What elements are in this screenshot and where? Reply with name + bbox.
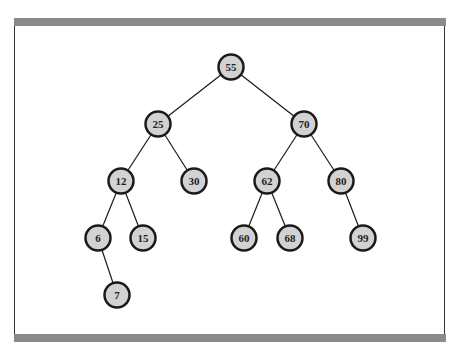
tree-node: 68 — [278, 226, 303, 251]
node-label: 60 — [239, 232, 251, 244]
node-label: 6 — [95, 232, 101, 244]
tree-node: 99 — [351, 226, 376, 251]
edges-layer — [98, 67, 363, 295]
tree-node: 62 — [255, 169, 280, 194]
node-label: 7 — [114, 289, 120, 301]
edge-n55-n25 — [158, 67, 231, 124]
node-label: 70 — [299, 118, 311, 130]
node-label: 62 — [262, 175, 274, 187]
tree-node: 80 — [329, 169, 354, 194]
node-label: 99 — [358, 232, 370, 244]
node-label: 15 — [138, 232, 150, 244]
node-label: 12 — [116, 175, 128, 187]
node-label: 55 — [226, 61, 238, 73]
node-label: 68 — [285, 232, 297, 244]
tree-node: 30 — [182, 169, 207, 194]
nodes-layer: 552570123062806156068997 — [86, 55, 376, 308]
tree-node: 55 — [219, 55, 244, 80]
tree-node: 25 — [146, 112, 171, 137]
node-label: 25 — [153, 118, 165, 130]
tree-diagram: 552570123062806156068997 — [0, 0, 458, 351]
tree-node: 60 — [232, 226, 257, 251]
tree-node: 15 — [131, 226, 156, 251]
tree-node: 70 — [292, 112, 317, 137]
node-label: 80 — [336, 175, 348, 187]
edge-n55-n70 — [231, 67, 304, 124]
tree-node: 6 — [86, 226, 111, 251]
tree-node: 12 — [109, 169, 134, 194]
tree-node: 7 — [105, 283, 130, 308]
node-label: 30 — [189, 175, 201, 187]
